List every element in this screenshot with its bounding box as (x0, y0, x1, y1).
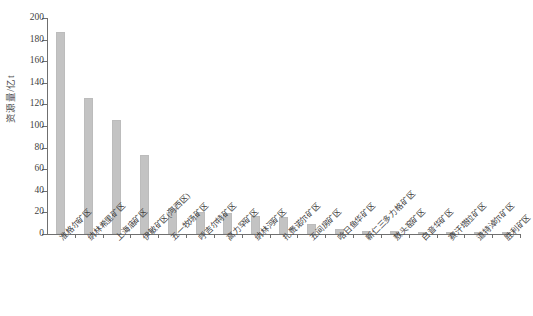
y-tick-label: 100 (30, 119, 44, 132)
y-tick-label: 160 (30, 54, 44, 67)
y-tick-label: 0 (39, 227, 44, 240)
y-axis-line (47, 18, 48, 234)
y-tick-label: 200 (30, 11, 44, 24)
y-tick-label: 120 (30, 97, 44, 110)
y-tick-label: 80 (35, 141, 45, 154)
y-axis-title: 资源量/亿t (3, 65, 17, 133)
bar (56, 32, 65, 234)
y-tick-label: 20 (35, 205, 45, 218)
y-tick-label: 40 (35, 184, 45, 197)
y-tick-label: 140 (30, 76, 44, 89)
y-tick-label: 60 (35, 162, 45, 175)
x-axis-labels: 准格尔矿区纳林希里矿区上海庙矿区伊敏矿区(河西区)五一牧场矿区呼吉尔特矿区高力罕… (47, 236, 527, 316)
plot-area: 020406080100120140160180200 (47, 18, 520, 234)
y-tick-label: 180 (30, 33, 44, 46)
